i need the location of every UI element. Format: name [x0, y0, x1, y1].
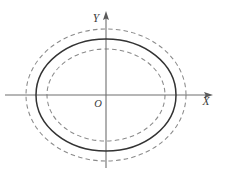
figure-canvas: Y X O [0, 0, 225, 173]
y-axis-label: Y [93, 12, 101, 24]
ellipse-figure: Y X O [0, 0, 225, 173]
origin-label: O [94, 98, 102, 109]
x-axis-label: X [201, 95, 210, 107]
